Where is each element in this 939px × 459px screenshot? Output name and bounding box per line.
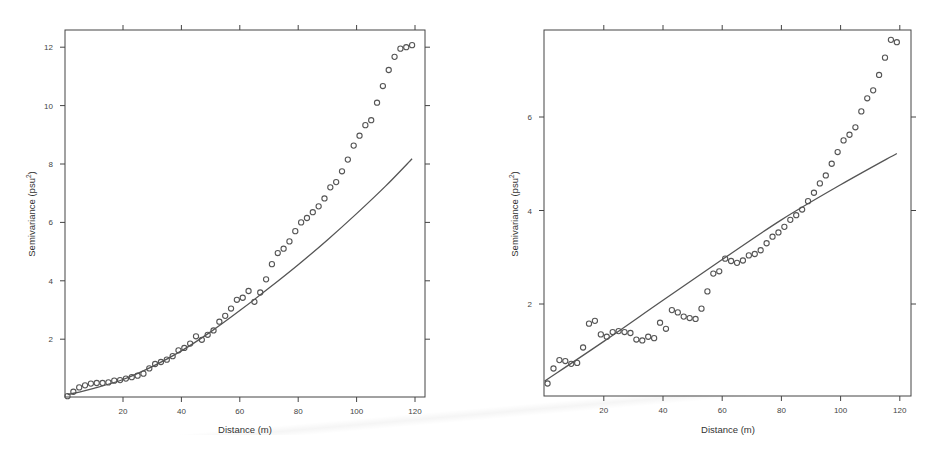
data-point <box>269 262 274 267</box>
data-point <box>823 173 828 178</box>
data-point <box>835 149 840 154</box>
data-point <box>339 169 344 174</box>
y-tick-label: 4 <box>49 277 54 286</box>
data-point <box>551 366 556 371</box>
right-semivariogram-chart: 20406080100120 246 Distance (m) Semivari… <box>470 0 939 459</box>
data-point <box>392 54 397 59</box>
x-tick-label: 100 <box>834 406 848 415</box>
data-point <box>847 132 852 137</box>
data-point <box>865 96 870 101</box>
data-point <box>859 109 864 114</box>
data-point <box>357 133 362 138</box>
x-tick-label: 60 <box>235 407 244 416</box>
data-point <box>894 40 899 45</box>
data-point <box>604 334 609 339</box>
data-point <box>580 345 585 350</box>
y-tick-label: 2 <box>528 300 533 309</box>
fitted-model-line <box>68 159 413 395</box>
y-tick-label: 4 <box>528 207 533 216</box>
x-tick-label: 80 <box>294 407 303 416</box>
data-point <box>398 46 403 51</box>
data-point <box>82 383 87 388</box>
data-point <box>223 313 228 318</box>
data-point <box>705 289 710 294</box>
data-point <box>882 55 887 60</box>
right-semivariogram-panel: 20406080100120 246 Distance (m) Semivari… <box>470 0 939 459</box>
x-tick-label: 120 <box>893 406 907 415</box>
data-point <box>811 190 816 195</box>
data-point <box>304 215 309 220</box>
data-point <box>693 316 698 321</box>
y-axis-title-text: Semivariance (psu <box>26 178 37 257</box>
data-point <box>652 336 657 341</box>
data-point <box>557 358 562 363</box>
data-point <box>841 138 846 143</box>
x-tick-label: 40 <box>177 407 186 416</box>
x-tick-label: 100 <box>350 407 364 416</box>
data-point <box>669 307 674 312</box>
data-point <box>888 37 893 42</box>
data-point <box>334 180 339 185</box>
data-point <box>646 334 651 339</box>
data-point <box>100 380 105 385</box>
data-point <box>776 230 781 235</box>
y-axis: 246 <box>528 113 916 309</box>
data-point <box>386 67 391 72</box>
x-axis-title: Distance (m) <box>701 424 755 435</box>
data-point <box>675 310 680 315</box>
data-point <box>598 332 603 337</box>
data-point <box>141 371 146 376</box>
empirical-points <box>65 43 415 399</box>
x-axis-title: Distance (m) <box>218 424 272 435</box>
data-point <box>586 321 591 326</box>
data-point <box>717 269 722 274</box>
data-point <box>794 213 799 218</box>
data-point <box>404 45 409 50</box>
data-point <box>610 329 615 334</box>
y-axis-title-close: ) <box>26 171 37 174</box>
data-point <box>217 319 222 324</box>
data-point <box>628 330 633 335</box>
data-point <box>246 288 251 293</box>
y-tick-label: 2 <box>49 335 54 344</box>
data-point <box>575 360 580 365</box>
x-tick-label: 80 <box>777 406 786 415</box>
data-point <box>409 43 414 48</box>
data-point <box>681 314 686 319</box>
data-point <box>740 258 745 263</box>
data-point <box>663 326 668 331</box>
data-point <box>351 143 356 148</box>
x-tick-label: 60 <box>718 406 727 415</box>
data-point <box>782 224 787 229</box>
data-point <box>752 251 757 256</box>
data-point <box>380 83 385 88</box>
empirical-points <box>545 37 899 386</box>
data-point <box>734 260 739 265</box>
x-axis: 20406080100120 <box>119 25 423 416</box>
data-point <box>193 334 198 339</box>
data-point <box>640 338 645 343</box>
data-point <box>746 253 751 258</box>
data-point <box>871 88 876 93</box>
data-point <box>634 337 639 342</box>
x-tick-label: 20 <box>119 407 128 416</box>
data-point <box>363 123 368 128</box>
data-point <box>322 196 327 201</box>
data-point <box>328 185 333 190</box>
x-tick-label: 20 <box>599 406 608 415</box>
data-point <box>699 306 704 311</box>
data-point <box>829 161 834 166</box>
data-point <box>545 381 550 386</box>
data-point <box>788 217 793 222</box>
data-point <box>234 297 239 302</box>
y-axis-title: Semivariance (psu2) <box>25 171 37 256</box>
data-point <box>876 72 881 77</box>
plot-frame <box>544 30 911 396</box>
data-point <box>94 380 99 385</box>
y-axis-title-text: Semivariance (psu <box>509 178 520 257</box>
data-point <box>240 295 245 300</box>
data-point <box>563 358 568 363</box>
plot-frame <box>65 30 425 397</box>
data-point <box>287 239 292 244</box>
fitted-model-line <box>545 153 897 381</box>
